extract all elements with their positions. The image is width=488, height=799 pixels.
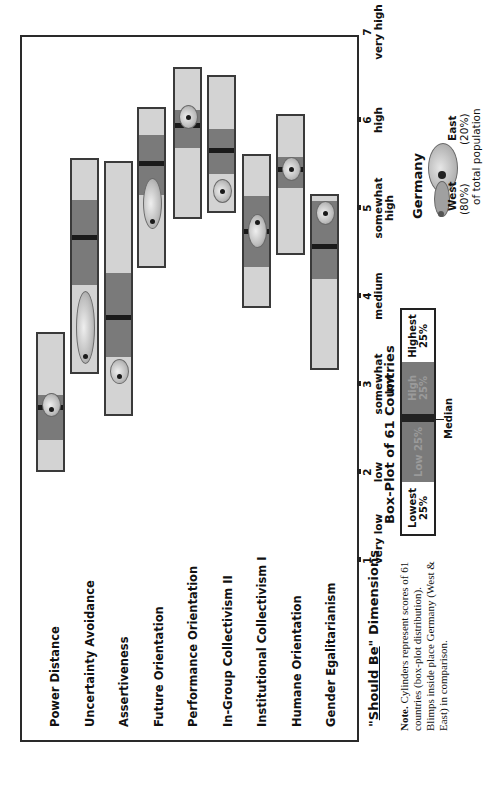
legend-high: High 25% — [402, 362, 434, 414]
tick-label-6: 6high — [362, 85, 384, 155]
dimension-label-performance-orientation: Performance Orientation — [186, 566, 200, 727]
dimension-label-future-orientation: Future Orientation — [152, 606, 166, 727]
germany-caption: of total population — [470, 108, 482, 205]
germany-west-label: West — [446, 181, 458, 211]
box-bar-in-group-collectivism-ii — [207, 75, 236, 213]
germany-east-pct: (20%) — [458, 113, 470, 145]
median-marker — [209, 148, 234, 153]
median-marker — [72, 235, 97, 240]
box-bar-power-distance — [36, 332, 65, 472]
interquartile-range — [72, 200, 97, 284]
box-bar-uncertainty-avoidance — [70, 158, 99, 374]
germany-east-label: East — [446, 115, 458, 141]
legend-median-bar — [402, 414, 434, 422]
boxplot-legend-title: Box-Plot of 61 Countries — [382, 345, 397, 524]
tick-label-4: 4medium — [362, 261, 384, 331]
median-marker — [312, 244, 337, 249]
axis-title: "Should Be" Dimensions — [366, 550, 381, 727]
box-bar-assertiveness — [104, 161, 133, 415]
box-bar-gender-egalitarianism — [310, 194, 339, 370]
tick-label-5: 5somewhat high — [362, 173, 395, 243]
dimension-label-power-distance: Power Distance — [48, 626, 62, 727]
tick-label-7: 7very high — [362, 0, 384, 67]
germany-blimp-icon — [42, 393, 61, 418]
germany-west-dot — [117, 374, 122, 379]
dimension-label-assertiveness: Assertiveness — [117, 637, 131, 727]
dimension-label-institutional-collectivism-i: Institutional Collectivism I — [255, 557, 269, 728]
dimension-label-uncertainty-avoidance: Uncertainty Avoidance — [83, 580, 97, 727]
dimension-label-gender-egalitarianism: Gender Egalitarianism — [324, 583, 338, 727]
germany-west-pct: (80%) — [458, 183, 470, 215]
germany-blimp-icon — [110, 359, 129, 384]
germany-legend-title: Germany — [410, 153, 425, 219]
boxplot-legend: Lowest 25% Low 25% High 25% Highest 25% — [400, 308, 436, 536]
legend-lowest: Lowest 25% — [402, 482, 434, 534]
dimension-label-in-group-collectivism-ii: In-Group Collectivism II — [221, 575, 235, 727]
box-bar-performance-orientation — [173, 67, 202, 218]
legend-median-label: Median — [443, 398, 454, 439]
dimension-label-humane-orientation: Humane Orientation — [290, 595, 304, 727]
note-text: Note. Cylinders represent scores of 61 c… — [398, 561, 450, 731]
germany-blimp-icon — [76, 291, 95, 363]
box-bar-institutional-collectivism-i — [242, 154, 271, 308]
germany-west-dot — [255, 220, 260, 225]
median-marker — [106, 315, 131, 320]
box-bar-future-orientation — [137, 107, 166, 268]
box-bar-humane-orientation — [276, 114, 305, 255]
tick-label-2: 2low — [362, 437, 384, 507]
legend-highest: Highest 25% — [402, 310, 434, 362]
chart-stage: Power DistanceUncertainty AvoidanceAsser… — [0, 0, 488, 799]
median-marker — [139, 161, 164, 166]
germany-west-dot — [83, 354, 88, 359]
legend-low: Low 25% — [402, 422, 434, 482]
